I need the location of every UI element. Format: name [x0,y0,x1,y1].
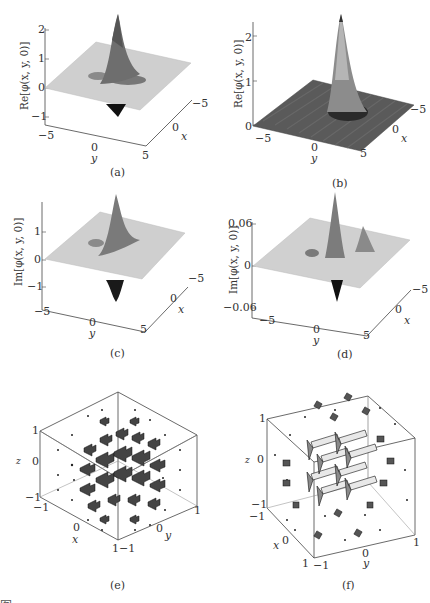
zlabel-c: Im[φ(x, y, 0)] [12,218,24,286]
ztick-a-1: 1 [38,53,45,64]
xtick-d-1: 0 [395,304,402,315]
ztick-c-2: −1 [27,281,43,292]
ztick-b-0: 2 [245,32,252,43]
caption-e: (e) [110,579,125,592]
prism-lattice-f [307,430,377,506]
vector-arrows-f [283,393,394,539]
ztick-c-1: 0 [34,254,41,265]
ytick-f-0: −1 [313,560,329,571]
xtick-d-0: −5 [412,284,428,295]
xlabel-f: x [273,540,279,551]
ztick-c-0: 1 [34,226,41,237]
xtick-b-0: −5 [410,104,426,115]
zlabel-d: Im[φ(x, y, 0)] [227,226,239,294]
xtick-f-0: −1 [249,511,265,522]
ytick-c-2: 5 [140,324,147,335]
caption-c: (c) [110,347,125,360]
xlabel-c: x [178,304,184,315]
xlabel-e: x [72,534,78,545]
ztick-d-1: 0 [244,260,251,271]
ytick-d-2: 5 [363,330,370,341]
surface-plot-a [0,0,215,190]
panel-c: 1 0 −1 Im[φ(x, y, 0)] −5 0 y 5 −5 0 x (c… [0,190,215,380]
xtick-c-1: 0 [170,293,177,304]
xtick-b-1: 0 [392,124,399,135]
ytick-d-0: −5 [259,315,275,326]
vector-field-plot-e [0,380,215,596]
panel-a: 2 1 0 −1 Re[φ(x, y, 0)] −5 0 y 5 −5 0 x … [0,0,215,190]
ylabel-b: y [311,153,317,164]
ytick-f-2: 1 [413,537,420,548]
ztick-f-0: 1 [259,413,266,424]
ztick-f-1: 0 [257,454,264,465]
zlabel-e: z [16,457,21,466]
ztick-a-2: 0 [38,82,45,93]
figure-caption-partial: 图… [0,596,430,603]
ztick-d-2: −0.06 [223,302,257,313]
ytick-b-2: 5 [360,148,367,159]
ztick-b-2: 0 [245,121,252,132]
ylabel-e: y [165,530,171,541]
ytick-e-0: −1 [119,543,135,554]
caption-a: (a) [110,166,125,179]
xtick-a-0: −5 [192,98,208,109]
xtick-f-1: 0 [282,535,289,546]
xtick-e-2: 1 [112,543,119,554]
zlabel-a: Re[φ(x, y, 0)] [18,42,30,110]
ytick-b-0: −5 [255,133,271,144]
xtick-e-1: 0 [73,522,80,533]
ztick-e-0: 1 [32,425,39,436]
ztick-a-3: −1 [31,111,47,122]
xtick-e-0: −1 [33,502,49,513]
xlabel-a: x [181,131,187,142]
ztick-f-2: −1 [251,499,267,510]
caption-d: (d) [337,348,353,361]
ylabel-a: y [91,153,97,164]
zlabel-f: z [245,456,250,465]
xtick-c-0: −5 [188,273,204,284]
surface-plot-b [215,0,430,190]
ytick-c-0: −5 [34,306,50,317]
xtick-a-1: 0 [172,122,179,133]
ztick-e-1: 0 [32,456,39,467]
ytick-e-1: 0 [156,523,163,534]
ytick-a-0: −5 [38,130,54,141]
ztick-a-0: 2 [38,24,45,35]
xlabel-d: x [404,315,410,326]
ztick-b-1: 1 [245,77,252,88]
ytick-e-2: 1 [194,505,201,516]
xtick-f-2: 1 [302,558,309,569]
xlabel-b: x [401,133,407,144]
panel-f: 1 z 0 −1 −1 x 0 1 −1 0 y 1 (f) [215,380,430,596]
panel-b: 2 1 0 Re[φ(x, y, 0)] −5 0 y 5 −5 0 x (b) [215,0,430,190]
caption-f: (f) [342,579,355,592]
panel-e: 1 z 0 −1 −1 0 x 1 −1 0 y 1 (e) [0,380,215,596]
vector-arrows-e [80,417,165,524]
ylabel-d: y [313,335,319,346]
ylabel-f: y [363,558,369,569]
panel-d: 0.06 0 −0.06 Im[φ(x, y, 0)] −5 0 y 5 −5 … [215,190,430,380]
caption-b: (b) [332,177,348,190]
ytick-a-2: 5 [142,150,149,161]
zlabel-b: Re[φ(x, y, 0)] [232,40,244,108]
ylabel-c: y [89,328,95,339]
